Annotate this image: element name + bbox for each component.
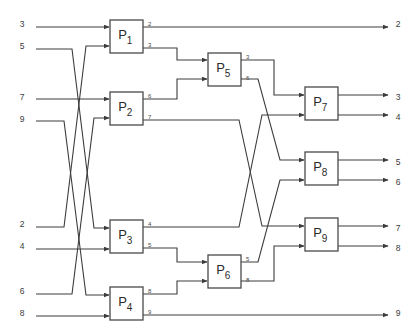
output-6-label: 6 [396,177,401,187]
input-7-label: 7 [20,92,25,102]
port-label-p5-out1: 3 [246,54,250,60]
node-p8-index: 8 [322,167,328,178]
output-2-label: 2 [396,19,401,29]
input-4-label: 4 [20,241,25,251]
node-p9-index: 9 [322,233,328,244]
port-label-p5-out2: 6 [246,75,250,81]
node-p5-index: 5 [225,68,231,79]
network-diagram: P1P2P3P4P5P6P7P8P9 236736458958 35792468… [0,0,415,334]
network-canvas: P1P2P3P4P5P6P7P8P9 236736458958 35792468… [0,0,415,334]
node-p5-label: P [216,60,225,75]
node-p6[interactable]: P6 [208,255,241,288]
input-3-label: 3 [20,19,25,29]
wire-in5-p3 [36,49,109,228]
input-5-label: 5 [20,41,25,51]
node-p7[interactable]: P7 [305,87,338,120]
port-label-p1-out2: 3 [148,42,152,48]
node-p3[interactable]: P3 [110,220,143,253]
nodes-layer: P1P2P3P4P5P6P7P8P9 [110,20,338,320]
node-p3-label: P [118,227,127,242]
wire-p4out1-p6 [143,281,207,294]
node-p6-index: 6 [225,270,231,281]
input-2-label: 2 [20,219,25,229]
node-p3-index: 3 [127,235,133,246]
node-p9[interactable]: P9 [305,218,338,251]
port-label-p3-out1: 4 [148,221,152,227]
node-p2-index: 2 [127,107,133,118]
wire-p3out2-p6 [143,248,207,262]
port-label-p1-out1: 2 [148,21,152,27]
output-9-label: 9 [396,308,401,318]
port-label-p2-out1: 6 [148,93,152,99]
wire-p3out1-p7 [143,115,304,227]
node-p8[interactable]: P8 [305,152,338,185]
output-7-label: 7 [396,223,401,233]
node-p9-label: P [313,225,322,240]
node-p6-label: P [216,262,225,277]
input-8-label: 8 [20,308,25,318]
output-5-label: 5 [396,157,401,167]
node-p1-index: 1 [127,35,133,46]
node-p2[interactable]: P2 [110,92,143,125]
output-4-label: 4 [396,112,401,122]
node-p2-label: P [118,99,127,114]
port-label-p4-out1: 8 [148,288,152,294]
port-label-p6-out1: 5 [246,256,250,262]
wire-in2-p1 [36,46,109,227]
node-p7-label: P [313,94,322,109]
wire-in6-p2 [36,118,109,294]
node-p5[interactable]: P5 [208,53,241,86]
node-p4-label: P [118,294,127,309]
node-p4-index: 4 [127,302,133,313]
wire-p6out2-p9 [241,246,304,281]
port-label-p4-out2: 9 [148,309,152,315]
input-9-label: 9 [20,114,25,124]
port-label-p6-out2: 8 [246,277,250,283]
wire-p5out1-p7 [241,60,304,95]
node-p1-label: P [118,27,127,42]
node-p4[interactable]: P4 [110,287,143,320]
wire-in9-p4 [36,121,109,295]
node-p8-label: P [313,159,322,174]
wire-p1out2-p5 [143,48,207,60]
port-label-p2-out2: 7 [148,114,152,120]
input-6-label: 6 [20,286,25,296]
output-3-label: 3 [396,92,401,102]
output-8-label: 8 [396,243,401,253]
wire-p2out1-p5 [143,79,207,99]
node-p1[interactable]: P1 [110,20,143,53]
wire-p2out2-p9 [143,120,304,226]
node-p7-index: 7 [322,102,328,113]
port-label-p3-out2: 5 [148,242,152,248]
wire-p5out2-p8 [241,79,304,160]
wire-p6out1-p8 [241,180,304,262]
